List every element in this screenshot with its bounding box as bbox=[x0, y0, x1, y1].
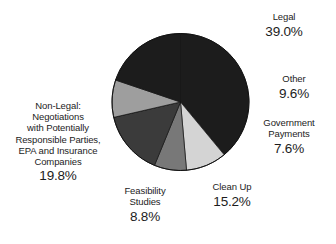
slice-label-other: Other 9.6% bbox=[256, 74, 332, 101]
slice-label-feasibility-studies: Feasibility Studies 8.8% bbox=[104, 186, 186, 224]
slice-label-legal-value: 39.0% bbox=[236, 24, 332, 40]
slice-label-other-name: Other bbox=[256, 74, 332, 85]
slice-label-clean-up: Clean Up 15.2% bbox=[192, 182, 272, 209]
pie-chart: Legal 39.0% Other 9.6% Government Paymen… bbox=[0, 0, 336, 244]
slice-label-non-legal: Non-Legal: Negotiations with Potentially… bbox=[2, 100, 114, 184]
slice-label-legal: Legal 39.0% bbox=[236, 12, 332, 39]
slice-label-other-value: 9.6% bbox=[256, 86, 332, 102]
slice-label-government-payments-value: 7.6% bbox=[244, 141, 334, 157]
slice-label-government-payments-name: Government Payments bbox=[244, 118, 334, 140]
slice-label-feasibility-studies-name: Feasibility Studies bbox=[104, 186, 186, 208]
slice-label-non-legal-name: Non-Legal: Negotiations with Potentially… bbox=[2, 100, 114, 167]
slice-label-feasibility-studies-value: 8.8% bbox=[104, 209, 186, 225]
slice-label-clean-up-name: Clean Up bbox=[192, 182, 272, 193]
slice-label-non-legal-value: 19.8% bbox=[2, 168, 114, 184]
slice-label-legal-name: Legal bbox=[236, 12, 332, 23]
slice-label-government-payments: Government Payments 7.6% bbox=[244, 118, 334, 156]
slice-label-clean-up-value: 15.2% bbox=[192, 194, 272, 210]
